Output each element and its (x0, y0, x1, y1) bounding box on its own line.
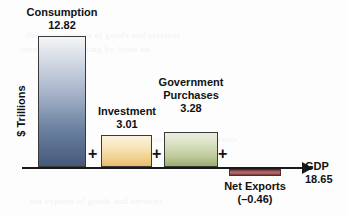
bar-net-exports (229, 169, 281, 176)
label-net-exports-value: (–0.46) (213, 193, 297, 206)
label-government-title-line1: Government (159, 76, 224, 88)
bar-investment (101, 135, 152, 167)
label-investment-value: 3.01 (96, 118, 158, 131)
scan-bleed-line-4: net exports of goods and services (30, 196, 163, 206)
operator-plus-2: + (152, 146, 161, 162)
operator-plus-3: + (218, 146, 227, 162)
bar-government (164, 132, 218, 167)
label-net-exports-title: Net Exports (224, 180, 286, 192)
label-gdp-value: 18.65 (305, 173, 347, 186)
label-gdp-title: GDP (305, 160, 329, 172)
y-axis-label: $ Trillions (15, 71, 27, 151)
bar-consumption (38, 36, 86, 167)
label-investment: Investment 3.01 (96, 105, 158, 131)
axis-baseline (22, 167, 305, 169)
label-investment-title: Investment (98, 105, 156, 117)
label-consumption-title: Consumption (27, 6, 98, 18)
label-consumption: Consumption 12.82 (14, 6, 110, 32)
operator-plus-1: + (88, 146, 97, 162)
label-consumption-value: 12.82 (14, 19, 110, 32)
gdp-components-chart: the consumption of goods and services in… (0, 0, 347, 215)
label-government-title-line2: Purchases (150, 89, 232, 102)
label-government-value: 3.28 (150, 102, 232, 115)
label-net-exports: Net Exports (–0.46) (213, 180, 297, 206)
label-government: Government Purchases 3.28 (150, 76, 232, 115)
label-gdp: GDP 18.65 (305, 160, 347, 186)
